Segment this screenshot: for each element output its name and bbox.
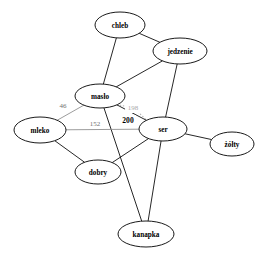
- graph-node-zolty[interactable]: żółty: [210, 132, 254, 156]
- graph-node-dobry[interactable]: dobry: [75, 160, 121, 184]
- node-label-zolty: żółty: [225, 141, 240, 149]
- graph-node-chleb[interactable]: chleb: [95, 12, 145, 38]
- graph-edge-chleb-maslo: [103, 38, 116, 84]
- graph-edge-ser-zolty: [185, 134, 212, 140]
- node-label-kanapka: kanapka: [133, 231, 160, 239]
- node-label-ser: ser: [158, 126, 168, 134]
- edge-weight-label-46: 46: [60, 102, 68, 110]
- graph-node-mleko[interactable]: mleko: [14, 117, 66, 143]
- edge-weight-label-198: 198: [128, 104, 139, 112]
- graph-edge-jedzenie-maslo: [116, 61, 162, 87]
- graph-edge-mleko-dobry: [55, 141, 85, 163]
- edge-weight-label-200: 200: [122, 116, 134, 125]
- graph-edge-ser-kanapka: [148, 141, 161, 221]
- graph-node-maslo[interactable]: masło: [75, 84, 125, 108]
- graph-canvas: chlebjedzeniemasłomlekoserżółtydobrykana…: [0, 0, 271, 258]
- node-label-jedzenie: jedzenie: [166, 48, 192, 56]
- graph-edge-mleko-ser: [66, 129, 139, 130]
- graph-edge-chleb-jedzenie: [139, 33, 160, 42]
- graph-node-kanapka[interactable]: kanapka: [118, 221, 174, 247]
- graph-edge-jedzenie-ser: [166, 64, 178, 117]
- node-label-chleb: chleb: [112, 22, 128, 30]
- node-label-dobry: dobry: [89, 169, 108, 177]
- graph-svg: chlebjedzeniemasłomlekoserżółtydobrykana…: [0, 0, 271, 258]
- graph-node-jedzenie[interactable]: jedzenie: [153, 38, 207, 64]
- graph-node-ser[interactable]: ser: [139, 117, 187, 141]
- node-label-maslo: masło: [91, 93, 109, 101]
- node-label-mleko: mleko: [31, 127, 50, 135]
- graph-edge-ser-dobry: [112, 139, 148, 163]
- edge-weight-label-152: 152: [90, 120, 101, 128]
